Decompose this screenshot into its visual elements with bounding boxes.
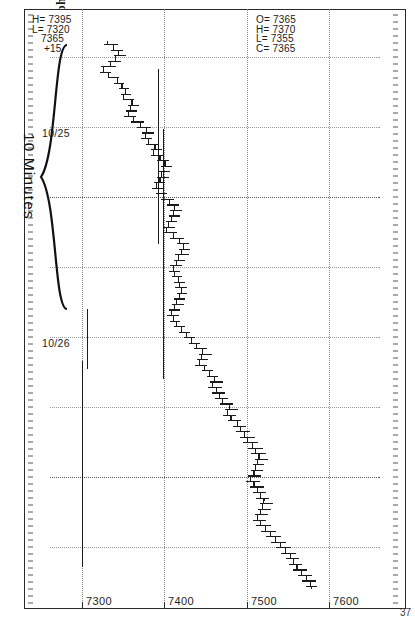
ohlc-bar (250, 485, 265, 488)
ohlc-bar (202, 369, 214, 372)
gridline-time-2 (50, 197, 380, 198)
price-axis-label-7600: 7600 (334, 595, 360, 607)
ohlc-bar (131, 120, 144, 123)
ohlc-bar (114, 82, 124, 85)
chart-ruler-bottom (29, 9, 38, 609)
ohlc-bar (142, 131, 154, 134)
ohlc-bar (253, 519, 266, 522)
ohlc-bar (225, 408, 238, 411)
ohlc-bar (100, 71, 112, 74)
ohlc-bar (246, 480, 259, 483)
ohlc-bar (223, 414, 236, 417)
ohlc-bar (256, 524, 271, 527)
ohlc-bar (167, 203, 179, 206)
gridline-time-7 (50, 547, 380, 548)
ohlc-bar (123, 98, 135, 101)
ohlc-bar (276, 546, 291, 549)
ohlc-bar (207, 375, 219, 378)
ohlc-bar (108, 60, 121, 63)
ohlc-bar (195, 364, 207, 367)
ohlc-bar (236, 430, 249, 433)
ohlc-bar (233, 425, 246, 428)
quote-readout-summary: H= 7395 L= 7320 7365 +15 (32, 15, 72, 53)
price-tick-7500 (247, 602, 248, 609)
ohlc-bar (243, 441, 258, 444)
ohlc-bar (177, 292, 187, 295)
session-boundary-line-2 (82, 361, 83, 567)
ohlc-bar (119, 87, 129, 90)
ohlc-bar (266, 535, 281, 538)
ohlc-bar (174, 297, 186, 300)
ohlc-bar (174, 325, 186, 328)
ohlc-bar (121, 93, 131, 96)
gridline-price-7400 (165, 9, 166, 609)
ohlc-bar (197, 358, 209, 361)
session-boundary-line-0 (163, 129, 164, 379)
ohlc-bar (175, 253, 188, 256)
price-tick-7600 (330, 602, 331, 609)
price-tick-7300 (82, 602, 83, 609)
ohlc-bar (256, 497, 269, 500)
ohlc-bar (261, 530, 276, 533)
ohlc-bar (141, 137, 153, 140)
ohlc-bar (170, 209, 182, 212)
ohlc-bar (184, 336, 196, 339)
ohlc-bar (174, 259, 186, 262)
ohlc-bar (137, 126, 150, 129)
ohlc-bar (215, 397, 228, 400)
gridline-price-7600 (330, 9, 331, 609)
ohlc-bar (255, 513, 268, 516)
ohlc-bar (220, 402, 233, 405)
ohlc-bar (164, 231, 177, 234)
ohlc-bar (298, 574, 313, 577)
ohlc-bar (306, 585, 318, 588)
date-axis-label-10-26: 10/26 (42, 337, 70, 349)
ohlc-bar (164, 226, 176, 229)
ohlc-bar (194, 347, 207, 350)
price-axis-label-7500: 7500 (251, 595, 277, 607)
ohlc-bar (111, 49, 123, 52)
ohlc-bar (172, 275, 182, 278)
ohlc-bar (174, 281, 186, 284)
gridline-time-4 (50, 337, 380, 338)
chart-container: 760075007400730010/2510/26 37 H= 7395 L=… (22, 6, 408, 612)
ohlc-bar (271, 541, 286, 544)
ohlc-bar (167, 314, 179, 317)
ohlc-bar (258, 508, 271, 511)
ohlc-bar (104, 43, 117, 46)
ohlc-bar (172, 303, 184, 306)
ohlc-bar (253, 491, 266, 494)
ohlc-bar (166, 220, 178, 223)
ohlc-bar (293, 568, 308, 571)
ohlc-bar (177, 242, 189, 245)
ohlc-bar (175, 286, 187, 289)
price-axis-label-7300: 7300 (86, 595, 112, 607)
chart-plot-area (50, 9, 380, 609)
ohlc-bar (251, 469, 263, 472)
gridline-price-7500 (247, 9, 248, 609)
ohlc-bar (255, 458, 268, 461)
ohlc-bar (170, 320, 180, 323)
ohlc-bar (212, 391, 225, 394)
ohlc-bar (169, 270, 181, 273)
ohlc-bar (101, 65, 116, 68)
price-tick-7400 (165, 602, 166, 609)
ohlc-bar (189, 342, 201, 345)
gridline-time-3 (50, 267, 380, 268)
ohlc-bar (126, 109, 138, 112)
price-axis-label-7400: 7400 (169, 595, 195, 607)
ohlc-bar (159, 170, 171, 173)
ohlc-bar (114, 54, 126, 57)
gridline-time-6 (50, 477, 380, 478)
session-boundary-line-3 (87, 309, 88, 369)
ohlc-bar (210, 380, 223, 383)
brace-label: 10 Minutes (20, 133, 38, 220)
ohlc-bar (108, 76, 120, 79)
ohlc-bar (286, 557, 299, 560)
ohlc-bar (124, 115, 136, 118)
gridline-time-0 (50, 57, 380, 58)
ohlc-bar (253, 463, 265, 466)
chart-ruler-top (394, 9, 403, 609)
ohlc-bar (281, 552, 296, 555)
gridline-time-5 (50, 407, 380, 408)
